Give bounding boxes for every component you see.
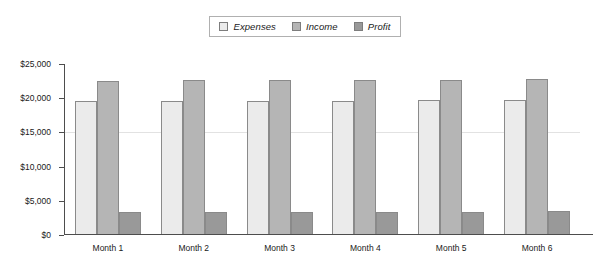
bar-income[interactable] [97,81,119,234]
y-tick-label: $20,000 [20,93,51,103]
bar-groups: Month 1Month 2Month 3Month 4Month 5Month… [65,64,580,234]
bar-chart-plot-area: $0$5,000$10,000$15,000$20,000$25,000 Mon… [64,64,580,235]
plot-inner: $0$5,000$10,000$15,000$20,000$25,000 Mon… [64,64,580,235]
bar-profit[interactable] [376,212,398,234]
legend-swatch-expenses [219,22,228,31]
bar-profit[interactable] [548,211,570,234]
legend-box: Expenses Income Profit [209,16,400,37]
y-tick: $0 [59,235,64,236]
bar-expenses[interactable] [75,101,97,234]
bar-expenses[interactable] [332,101,354,234]
legend-entry-profit[interactable]: Profit [354,21,391,32]
bar-expenses[interactable] [161,101,183,234]
bar-group: Month 3 [237,64,323,234]
bar-profit[interactable] [119,212,141,234]
x-axis-line [64,234,593,235]
bar-income[interactable] [354,80,376,234]
bar-income[interactable] [440,80,462,234]
y-tick-label: $5,000 [25,196,51,206]
y-tick-label: $15,000 [20,127,51,137]
bar-income[interactable] [183,80,205,234]
y-tick-label: $10,000 [20,162,51,172]
x-axis-category-label: Month 6 [494,243,580,253]
legend-label-expenses: Expenses [233,21,276,32]
x-axis-category-label: Month 2 [151,243,237,253]
bar-expenses[interactable] [504,100,526,234]
bar-profit[interactable] [462,212,484,234]
bar-group: Month 2 [151,64,237,234]
bar-profit[interactable] [205,212,227,234]
y-tick-label: $25,000 [20,59,51,69]
bar-group: Month 4 [322,64,408,234]
bar-income[interactable] [526,79,548,234]
bar-profit[interactable] [291,212,313,234]
legend-entry-expenses[interactable]: Expenses [219,21,276,32]
legend-label-income: Income [306,21,338,32]
bar-group: Month 1 [65,64,151,234]
x-axis-category-label: Month 3 [237,243,323,253]
x-axis-category-label: Month 1 [65,243,151,253]
x-axis-category-label: Month 4 [322,243,408,253]
bar-income[interactable] [269,80,291,234]
chart-legend: Expenses Income Profit [0,16,610,37]
legend-swatch-income [292,22,301,31]
bar-expenses[interactable] [418,100,440,234]
legend-swatch-profit [354,22,363,31]
legend-entry-income[interactable]: Income [292,21,338,32]
bar-group: Month 6 [494,64,580,234]
x-axis-category-label: Month 5 [408,243,494,253]
bar-expenses[interactable] [247,101,269,234]
y-tick-label: $0 [42,230,51,240]
legend-label-profit: Profit [368,21,391,32]
bar-group: Month 5 [408,64,494,234]
